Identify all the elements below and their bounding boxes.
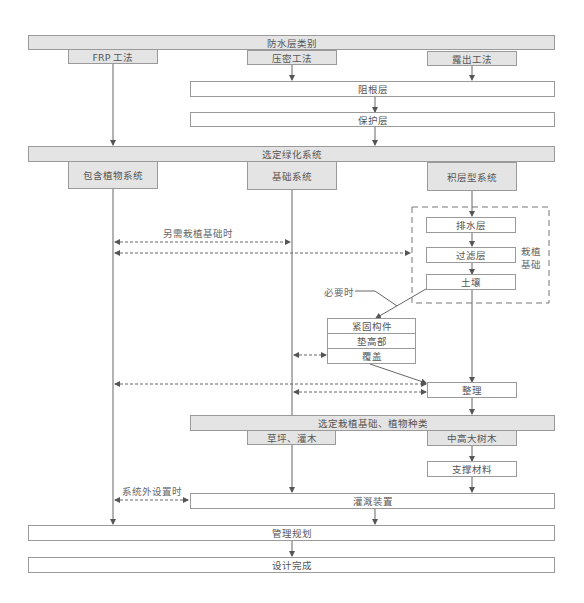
greening-system-header: 选定绿化系统: [28, 146, 555, 162]
planting-base-label-1: 栽植: [521, 244, 541, 258]
soil-layer: 土壤: [426, 274, 516, 290]
plant-tall-trees: 中高大树木: [427, 430, 517, 446]
cover: 覆盖: [327, 348, 416, 364]
system-layered: 积层型系统: [427, 162, 517, 191]
filter-layer: 过滤层: [426, 247, 516, 263]
management-plan: 管理规划: [28, 525, 555, 541]
note-if-needed: 必要时: [324, 285, 354, 299]
raised-part: 垫高部: [327, 333, 416, 349]
method-frp: FRP 工法: [68, 49, 158, 64]
note-extra-base: 另需栽植基础时: [163, 226, 233, 240]
root-barrier-layer: 阻根层: [190, 81, 555, 97]
planting-selection-header: 选定栽植基础、植物种类: [190, 415, 555, 431]
waterproof-type-header: 防水层类别: [28, 35, 555, 50]
system-with-plants: 包含植物系统: [68, 161, 158, 189]
note-outside-system: 系统外设置时: [122, 484, 182, 498]
plant-lawn-shrub: 草坪、灌木: [247, 430, 336, 445]
design-complete: 设计完成: [28, 557, 555, 573]
finish: 整理: [427, 382, 517, 398]
support-material: 支撑材料: [427, 461, 517, 477]
fixing-member: 紧固构件: [327, 318, 416, 334]
method-exposed: 露出工法: [427, 51, 517, 66]
drainage-layer: 排水层: [426, 217, 516, 233]
method-compression: 压密工法: [247, 50, 337, 65]
planting-base-label-2: 基础: [521, 257, 541, 271]
system-base: 基础系统: [247, 161, 337, 190]
protection-layer: 保护层: [190, 112, 555, 127]
irrigation-device: 灌溉装置: [190, 493, 555, 509]
